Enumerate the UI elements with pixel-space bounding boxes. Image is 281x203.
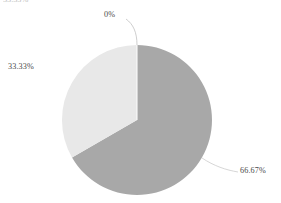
pie-label-66: 66.67% [240, 167, 266, 175]
leader-line-66 [202, 158, 238, 172]
pie-label-zero: 0% [104, 11, 115, 19]
pie-chart: 33.33% 0% 33.33% 66.67% [0, 0, 281, 203]
leader-line-zero [126, 19, 137, 45]
pie-label-33: 33.33% [8, 63, 34, 71]
pie-chart-graphic [0, 0, 281, 203]
